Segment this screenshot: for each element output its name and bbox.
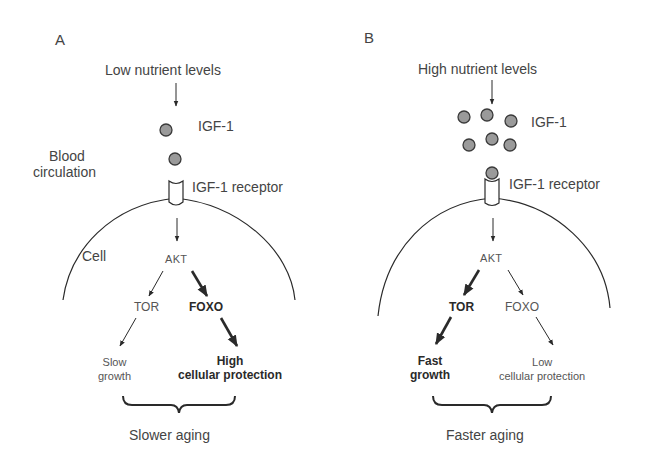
tor-growth-arrow-b xyxy=(436,317,451,344)
brace-a xyxy=(123,396,235,413)
diagram-graphics xyxy=(0,0,649,466)
igf1-ligand-icon xyxy=(169,153,181,165)
igf1-bound-ligand-icon xyxy=(486,167,498,179)
blood-line-1: Blood xyxy=(33,148,96,164)
igf1-ligand-icon xyxy=(486,133,498,145)
blood-line-2: circulation xyxy=(33,164,96,180)
igf1-ligand-icon xyxy=(481,109,493,121)
outcome-right-a: High cellular protection xyxy=(178,354,282,382)
outcome-left-b: Fast growth xyxy=(410,354,450,382)
tor-growth-arrow-a xyxy=(120,318,136,346)
outcome-left-a: Slow growth xyxy=(98,355,131,383)
outcome-left-a-line1: Slow xyxy=(98,355,131,369)
outcome-left-b-line1: Fast xyxy=(410,354,450,368)
outcome-right-b: Low cellular protection xyxy=(499,355,585,383)
akt-label-a: AKT xyxy=(165,254,187,265)
nutrient-label-a: Low nutrient levels xyxy=(105,63,221,77)
brace-b xyxy=(433,396,551,413)
igf1-ligand-icon xyxy=(458,111,470,123)
receptor-label-b: IGF-1 receptor xyxy=(509,177,600,191)
nutrient-label-b: High nutrient levels xyxy=(418,62,537,76)
akt-foxo-arrow-b xyxy=(508,270,523,295)
receptor-label-a: IGF-1 receptor xyxy=(192,180,283,194)
ligand-label-b: IGF-1 xyxy=(531,115,567,129)
akt-tor-arrow-b xyxy=(464,270,479,295)
igf1-ligand-icon xyxy=(160,124,172,136)
igf1-ligand-icon xyxy=(505,115,517,127)
foxo-label-b: FOXO xyxy=(505,301,539,313)
igf1-ligand-icon xyxy=(504,139,516,151)
panel-letter-a: A xyxy=(55,32,65,47)
cell-label: Cell xyxy=(82,249,106,263)
igf1-ligand-icon xyxy=(463,139,475,151)
result-label-a: Slower aging xyxy=(129,428,210,442)
outcome-right-a-line2: cellular protection xyxy=(178,368,282,382)
outcome-right-b-line2: cellular protection xyxy=(499,369,585,383)
panel-letter-b: B xyxy=(364,30,374,45)
receptor-icon-b xyxy=(485,179,499,206)
tor-label-b: TOR xyxy=(449,301,474,313)
receptor-icon-a xyxy=(169,181,183,205)
result-label-b: Faster aging xyxy=(446,428,524,442)
tor-label-a: TOR xyxy=(134,301,159,313)
foxo-protection-arrow-b xyxy=(536,317,553,345)
akt-label-b: AKT xyxy=(480,253,502,264)
foxo-protection-arrow-a xyxy=(221,318,237,346)
akt-foxo-arrow-a xyxy=(192,271,207,296)
outcome-right-a-line1: High xyxy=(178,354,282,368)
ligand-label-a: IGF-1 xyxy=(198,119,234,133)
outcome-left-a-line2: growth xyxy=(98,369,131,383)
outcome-left-b-line2: growth xyxy=(410,368,450,382)
outcome-right-b-line1: Low xyxy=(499,355,585,369)
foxo-label-a: FOXO xyxy=(189,301,223,313)
blood-circulation-label: Blood circulation xyxy=(33,148,96,180)
akt-tor-arrow-a xyxy=(149,271,163,296)
